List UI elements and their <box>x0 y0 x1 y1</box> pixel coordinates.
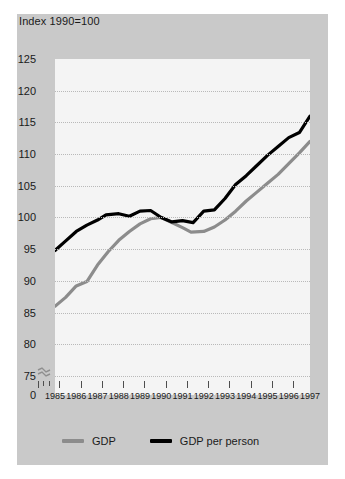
x-axis-label: 1995 <box>257 392 277 401</box>
series-line-gdp-per-person <box>55 116 310 250</box>
y-axis-label: 115 <box>2 117 36 128</box>
x-axis-labels: 1985198619871988198919901991199219931994… <box>17 392 317 408</box>
y-axis-label: 105 <box>2 180 36 191</box>
y-axis-label: 75 <box>2 370 36 381</box>
legend-label-gdp-per-person: GDP per person <box>180 435 259 447</box>
y-axis-label: 80 <box>2 339 36 350</box>
x-axis-label: 1997 <box>300 392 320 401</box>
x-axis-tick <box>293 381 294 388</box>
plot-area <box>55 59 310 395</box>
x-axis-tick <box>187 381 188 388</box>
x-axis-label: 1987 <box>87 392 107 401</box>
gridline <box>55 313 310 314</box>
x-axis-minor-tick <box>43 381 44 386</box>
y-axis-label: 100 <box>2 212 36 223</box>
legend-swatch-gdp <box>62 439 84 443</box>
x-axis-tick <box>251 381 252 388</box>
gridline <box>55 154 310 155</box>
gridline <box>55 91 310 92</box>
x-axis-tick <box>208 381 209 388</box>
x-axis-tick <box>59 381 60 388</box>
x-axis-minor-tick <box>49 381 50 386</box>
x-axis-label: 1992 <box>194 392 214 401</box>
x-axis-tick <box>144 381 145 388</box>
x-axis-label: 1994 <box>236 392 256 401</box>
x-axis-tick <box>102 381 103 388</box>
x-axis-label: 1996 <box>279 392 299 401</box>
gridline <box>55 122 310 123</box>
gridline <box>55 344 310 345</box>
y-axis-label: 90 <box>2 275 36 286</box>
x-axis-tick <box>123 381 124 388</box>
y-axis-label: 85 <box>2 307 36 318</box>
x-axis-label: 1985 <box>45 392 65 401</box>
gridline <box>55 376 310 377</box>
gridline <box>55 249 310 250</box>
x-axis-tick <box>229 381 230 388</box>
y-axis-label: 110 <box>2 149 36 160</box>
x-axis-tick <box>166 381 167 388</box>
x-axis-label: 1986 <box>66 392 86 401</box>
y-axis-label: 125 <box>2 54 36 65</box>
x-axis-tick <box>81 381 82 388</box>
legend-item-gdp-per-person[interactable]: GDP per person <box>150 435 259 447</box>
chart-legend: GDP GDP per person <box>17 430 328 452</box>
legend-item-gdp[interactable]: GDP <box>62 435 116 447</box>
gridline <box>55 217 310 218</box>
x-axis-label: 1993 <box>215 392 235 401</box>
axis-break-icon <box>37 364 51 378</box>
x-axis-label: 1988 <box>109 392 129 401</box>
y-axis-label: 120 <box>2 85 36 96</box>
x-axis-ticks <box>38 381 293 390</box>
gridline <box>55 186 310 187</box>
gridline <box>55 281 310 282</box>
x-axis-label: 1989 <box>130 392 150 401</box>
x-axis-label: 1991 <box>172 392 192 401</box>
x-axis-label: 1990 <box>151 392 171 401</box>
x-axis-tick <box>272 381 273 388</box>
legend-label-gdp: GDP <box>92 435 116 447</box>
y-axis-label: 95 <box>2 244 36 255</box>
x-axis-tick <box>38 381 39 388</box>
legend-swatch-gdp-per-person <box>150 439 172 443</box>
